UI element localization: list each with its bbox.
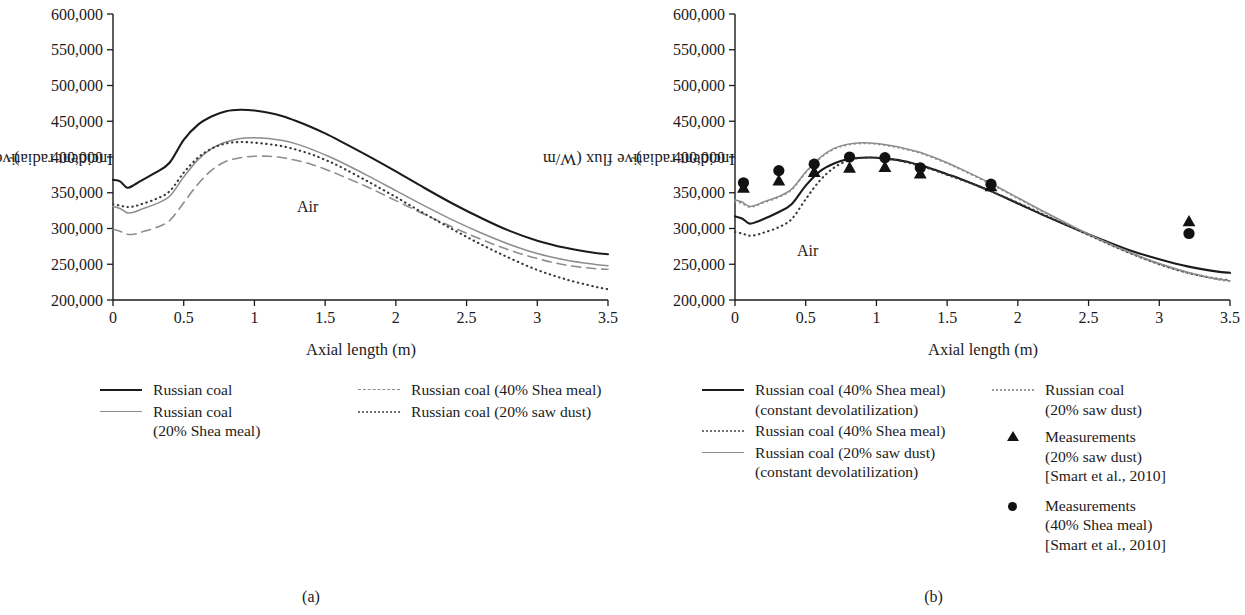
y-tick-label-b-7: 550,000 (673, 41, 725, 58)
figure-panel-a: Incident radiative flux (W/m2) 200,00025… (0, 0, 622, 615)
caption-b: (b) (622, 588, 1245, 606)
series-line-a-0 (113, 110, 608, 254)
x-tick-label-a-6: 3 (533, 309, 541, 326)
legend-key-dotted-dark-icon (700, 421, 746, 441)
x-tick-label-a-7: 3.5 (598, 309, 618, 326)
x-tick-label-a-2: 1 (250, 309, 258, 326)
marker-circle-b-2 (809, 159, 820, 170)
legend-key-solid-dark-icon (700, 380, 746, 400)
y-tick-label-b-1: 250,000 (673, 256, 725, 273)
chart-plot-b: 200,000250,000300,000350,000400,000450,0… (622, 0, 1245, 340)
x-tick-label-b-5: 2.5 (1079, 309, 1099, 326)
marker-triangle-b-3 (843, 161, 856, 172)
marker-circle-b-0 (738, 177, 749, 188)
legend-label-b-0: Russian coal (40% Shea meal) (constant d… (755, 380, 946, 419)
legend-label-a2-1: Russian coal (20% saw dust) (411, 402, 591, 422)
x-tick-label-b-6: 3 (1155, 309, 1163, 326)
x-tick-label-b-4: 2 (1014, 309, 1022, 326)
legend-a: Russian coalRussian coal (20% Shea meal)… (98, 380, 618, 442)
x-tick-label-b-1: 0.5 (796, 309, 816, 326)
legend-key-solid-dark-icon (98, 380, 144, 400)
legend-key-solid-gray-icon (98, 402, 144, 422)
y-tick-label-a-4: 400,000 (51, 149, 103, 166)
marker-circle-b-5 (915, 162, 926, 173)
y-tick-label-b-0: 200,000 (673, 292, 725, 309)
x-tick-label-a-3: 1.5 (315, 309, 335, 326)
legend-item-b-1: Russian coal (40% Shea meal) (700, 421, 990, 441)
legend-item-b2-2: Measurements (40% Shea meal) [Smart et a… (990, 496, 1240, 555)
legend-label-b-1: Russian coal (40% Shea meal) (755, 421, 946, 441)
legend-key-dashed-gray-icon (356, 380, 402, 400)
legend-key-dotted-dark-icon (356, 402, 402, 422)
legend-item-b2-1: Measurements (20% saw dust) [Smart et al… (990, 427, 1240, 486)
figure-panel-b: Incident radiative flux (W/m2) 200,00025… (622, 0, 1244, 615)
legend-item-a-0: Russian coal (98, 380, 356, 400)
y-tick-label-b-5: 450,000 (673, 113, 725, 130)
x-tick-label-a-4: 2 (392, 309, 400, 326)
marker-circle-b-3 (844, 151, 855, 162)
x-tick-label-a-5: 2.5 (457, 309, 477, 326)
legend-label-b2-2: Measurements (40% Shea meal) [Smart et a… (1045, 496, 1166, 555)
y-tick-label-b-2: 300,000 (673, 220, 725, 237)
legend-item-b-2: Russian coal (20% saw dust) (constant de… (700, 443, 990, 482)
marker-circle-b-7 (1183, 228, 1194, 239)
series-line-a-1 (113, 138, 608, 266)
legend-item-a2-0: Russian coal (40% Shea meal) (356, 380, 618, 400)
x-tick-label-b-0: 0 (731, 309, 739, 326)
legend-label-a2-0: Russian coal (40% Shea meal) (411, 380, 602, 400)
y-tick-label-b-4: 400,000 (673, 149, 725, 166)
y-tick-label-a-7: 550,000 (51, 41, 103, 58)
annotation-air-a: Air (297, 198, 318, 216)
y-tick-label-b-8: 600,000 (673, 6, 725, 23)
legend-a-column-right: Russian coal (40% Shea meal)Russian coal… (356, 380, 618, 442)
legend-label-b2-0: Russian coal (20% saw dust) (1045, 380, 1142, 419)
x-tick-label-b-3: 1.5 (937, 309, 957, 326)
x-tick-label-a-1: 0.5 (174, 309, 194, 326)
x-axis-title-a: Axial length (m) (113, 340, 609, 360)
legend-b-column-right: Russian coal (20% saw dust)Measurements … (990, 380, 1240, 555)
legend-label-b2-1: Measurements (20% saw dust) [Smart et al… (1045, 427, 1166, 486)
y-tick-label-b-3: 350,000 (673, 184, 725, 201)
legend-b-column-left: Russian coal (40% Shea meal) (constant d… (700, 380, 990, 483)
annotation-air-b: Air (797, 242, 818, 260)
legend-item-a2-1: Russian coal (20% saw dust) (356, 402, 618, 422)
caption-a: (a) (0, 588, 622, 606)
legend-key-triangle-icon (990, 427, 1036, 447)
x-axis-title-b: Axial length (m) (735, 340, 1231, 360)
x-tick-label-a-0: 0 (109, 309, 117, 326)
y-tick-label-a-2: 300,000 (51, 220, 103, 237)
legend-label-b-2: Russian coal (20% saw dust) (constant de… (755, 443, 935, 482)
chart-plot-a: 200,000250,000300,000350,000400,000450,0… (0, 0, 622, 340)
legend-a-column-left: Russian coalRussian coal (20% Shea meal) (98, 380, 356, 442)
y-tick-label-a-0: 200,000 (51, 292, 103, 309)
marker-triangle-b-7 (1183, 215, 1196, 226)
series-line-a-3 (113, 142, 608, 289)
legend-label-a-1: Russian coal (20% Shea meal) (153, 402, 260, 441)
legend-item-a-1: Russian coal (20% Shea meal) (98, 402, 356, 441)
y-tick-label-a-3: 350,000 (51, 184, 103, 201)
y-tick-label-a-6: 500,000 (51, 77, 103, 94)
x-tick-label-b-2: 1 (872, 309, 880, 326)
y-tick-label-a-1: 250,000 (51, 256, 103, 273)
marker-circle-b-6 (985, 179, 996, 190)
legend-label-a-0: Russian coal (153, 380, 232, 400)
legend-key-circle-icon (990, 496, 1036, 516)
y-tick-label-a-5: 450,000 (51, 113, 103, 130)
legend-item-b-0: Russian coal (40% Shea meal) (constant d… (700, 380, 990, 419)
y-tick-label-a-8: 600,000 (51, 6, 103, 23)
marker-circle-b-1 (773, 165, 784, 176)
x-tick-label-b-7: 3.5 (1220, 309, 1240, 326)
y-tick-label-b-6: 500,000 (673, 77, 725, 94)
legend-key-dotted-gray-icon (990, 380, 1036, 400)
legend-item-b2-0: Russian coal (20% saw dust) (990, 380, 1240, 419)
legend-key-solid-gray-icon (700, 443, 746, 463)
marker-circle-b-4 (879, 152, 890, 163)
